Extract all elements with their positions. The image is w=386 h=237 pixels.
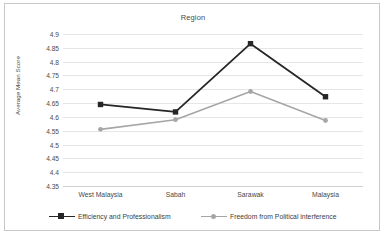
legend-item-freedom[interactable]: Freedom from Political interference bbox=[201, 209, 336, 223]
y-tick-label: 4.65 bbox=[5, 100, 59, 107]
series-line-1 bbox=[101, 91, 326, 129]
y-tick-label: 4.55 bbox=[5, 127, 59, 134]
data-point-marker bbox=[173, 117, 178, 122]
x-tick-label: Sabah bbox=[166, 191, 186, 198]
data-point-marker bbox=[98, 102, 103, 107]
data-point-marker bbox=[323, 94, 328, 99]
chart-title: Region bbox=[5, 13, 381, 22]
y-tick-label: 4.35 bbox=[5, 183, 59, 190]
y-tick-label: 4.7 bbox=[5, 86, 59, 93]
y-tick-label: 4.45 bbox=[5, 155, 59, 162]
y-tick-label: 4.5 bbox=[5, 141, 59, 148]
data-point-marker bbox=[248, 41, 253, 46]
legend-swatch-circle-icon bbox=[201, 211, 227, 221]
legend-swatch-square-icon bbox=[49, 211, 75, 221]
x-tick-label: West Malaysia bbox=[78, 191, 122, 198]
y-axis-tick-labels: 4.354.44.454.54.554.64.654.74.754.84.854… bbox=[5, 34, 59, 186]
y-tick-label: 4.75 bbox=[5, 72, 59, 79]
x-tick-label: Sarawak bbox=[237, 191, 263, 198]
x-axis-line bbox=[63, 186, 363, 187]
chart-legend: Efficiency and Professionalism Freedom f… bbox=[5, 209, 381, 227]
series-layer bbox=[63, 34, 363, 186]
y-tick-label: 4.9 bbox=[5, 31, 59, 38]
x-axis-tick-labels: West MalaysiaSabahSarawakMalaysia bbox=[63, 191, 363, 205]
series-line-0 bbox=[101, 44, 326, 112]
chart-container: Region Average Mean Score 4.354.44.454.5… bbox=[4, 3, 380, 231]
y-tick-label: 4.85 bbox=[5, 44, 59, 51]
data-point-marker bbox=[248, 89, 253, 94]
legend-label-efficiency: Efficiency and Professionalism bbox=[78, 213, 171, 220]
x-tick-label: Malaysia bbox=[312, 191, 339, 198]
data-point-marker bbox=[98, 127, 103, 132]
y-tick-label: 4.6 bbox=[5, 113, 59, 120]
legend-marker-circle bbox=[211, 214, 216, 219]
legend-item-efficiency[interactable]: Efficiency and Professionalism bbox=[49, 209, 171, 223]
legend-marker-square bbox=[58, 213, 64, 219]
y-tick-label: 4.4 bbox=[5, 169, 59, 176]
legend-label-freedom: Freedom from Political interference bbox=[230, 213, 336, 220]
data-point-marker bbox=[323, 118, 328, 123]
data-point-marker bbox=[173, 109, 178, 114]
y-tick-label: 4.8 bbox=[5, 58, 59, 65]
